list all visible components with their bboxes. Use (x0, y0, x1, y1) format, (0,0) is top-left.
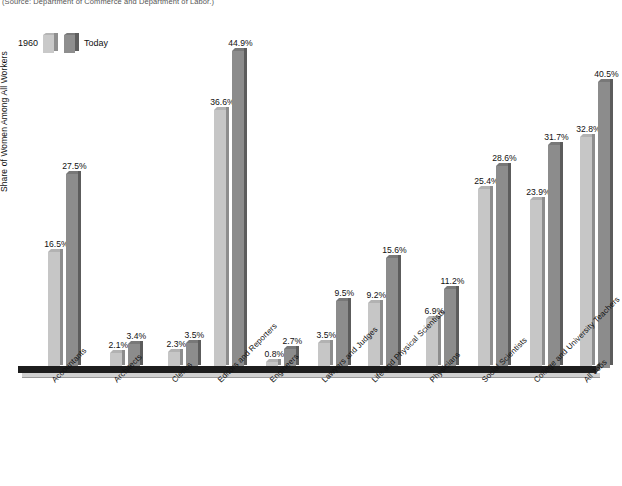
bar-value-label: 25.4% (474, 176, 498, 186)
bar-today[interactable]: 27.5% (66, 174, 81, 368)
bar-value-label: 0.8% (264, 349, 284, 359)
y-axis-title: Share of Women Among All Workers (0, 51, 9, 192)
bar-1960[interactable]: 36.6% (214, 110, 229, 368)
bars-layer: 16.5%27.5%2.1%3.4%2.3%3.5%36.6%44.9%0.8%… (18, 10, 596, 368)
bar-value-label: 40.5% (594, 69, 618, 79)
source-note: (Source: Department of Commerce and Depa… (2, 0, 214, 6)
bar-value-label: 44.9% (228, 38, 252, 48)
bar-value-label: 15.6% (382, 245, 406, 255)
bar-value-label: 3.5% (184, 330, 204, 340)
bar-today[interactable]: 40.5% (598, 82, 613, 368)
bar-value-label: 11.2% (441, 276, 465, 286)
bar-value-label: 3.4% (126, 331, 146, 341)
bar-value-label: 16.5% (44, 239, 68, 249)
x-axis-labels: AccountantsArchitectsClericsEditors and … (18, 378, 596, 478)
bar-today[interactable]: 44.9% (232, 51, 247, 368)
chart-plot-area: 16.5%27.5%2.1%3.4%2.3%3.5%36.6%44.9%0.8%… (18, 10, 596, 368)
axis-baseline (18, 366, 596, 373)
bar-value-label: 28.6% (492, 153, 516, 163)
bar-1960[interactable]: 25.4% (478, 189, 493, 368)
bar-value-label: 23.9% (526, 187, 550, 197)
bar-1960[interactable]: 3.5% (318, 343, 333, 368)
bar-today[interactable]: 31.7% (548, 145, 563, 368)
bar-value-label: 27.5% (62, 161, 86, 171)
bar-value-label: 2.1% (108, 340, 128, 350)
bar-value-label: 36.6% (210, 97, 234, 107)
bar-1960[interactable]: 16.5% (48, 252, 63, 368)
bar-value-label: 31.7% (544, 132, 568, 142)
bar-1960[interactable]: 23.9% (530, 200, 545, 368)
bar-value-label: 2.7% (282, 336, 302, 346)
bar-value-label: 2.3% (166, 339, 186, 349)
bar-value-label: 3.5% (316, 330, 336, 340)
bar-value-label: 9.2% (366, 290, 386, 300)
bar-today[interactable]: 28.6% (496, 166, 511, 368)
bar-value-label: 32.8% (576, 124, 600, 134)
bar-value-label: 9.5% (334, 288, 354, 298)
